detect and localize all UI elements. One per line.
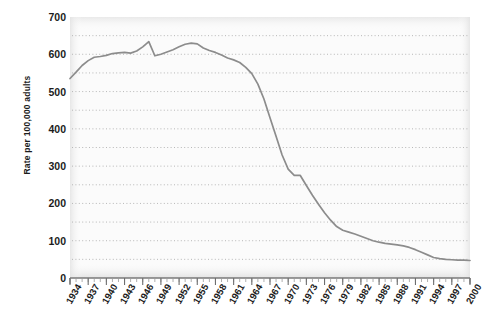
chart-figure: Rate per 100,000 adults 0100200300400500… [0, 0, 494, 321]
x-tick-label: 1988 [390, 282, 410, 306]
x-tick-label: 1973 [299, 282, 319, 306]
x-tick-label: 1946 [136, 282, 156, 306]
x-tick-label: 1991 [408, 282, 428, 306]
x-tick-label: 1943 [117, 282, 137, 306]
x-axis-tick-labels: 1934193719401943194619491952195519581961… [0, 282, 494, 321]
x-tick-label: 1961 [227, 282, 247, 306]
x-tick-label: 1967 [263, 282, 283, 306]
x-tick-label: 1955 [190, 282, 210, 306]
x-tick-label: 1982 [354, 282, 374, 306]
x-tick-label: 1964 [245, 282, 265, 306]
x-tick-label: 1934 [63, 282, 83, 306]
x-tick-label: 1994 [427, 282, 447, 306]
x-tick-label: 1952 [172, 282, 192, 306]
x-tick-label: 1985 [372, 282, 392, 306]
x-tick-label: 2000 [463, 282, 483, 306]
plot-area [0, 0, 494, 321]
x-tick-label: 1937 [81, 282, 101, 306]
x-tick-label: 1949 [154, 282, 174, 306]
x-tick-label: 1970 [281, 282, 301, 306]
x-tick-label: 1979 [336, 282, 356, 306]
x-tick-label: 1976 [317, 282, 337, 306]
x-tick-label: 1997 [445, 282, 465, 306]
x-tick-label: 1940 [99, 282, 119, 306]
x-tick-label: 1958 [208, 282, 228, 306]
